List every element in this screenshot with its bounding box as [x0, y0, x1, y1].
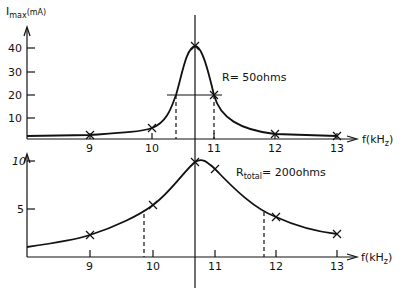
top-ytick-30: 30	[8, 66, 22, 79]
bottom-xlabel: f(kHz)	[361, 251, 392, 266]
top-ytick-40: 40	[8, 42, 22, 55]
bottom-xtick-13: 13	[330, 260, 344, 273]
bottom-xtick-10: 10	[146, 260, 160, 273]
top-ylabel: Imax(mA)	[6, 5, 46, 20]
bottom-xtick-11: 11	[208, 260, 222, 273]
top-xtick-12: 12	[268, 142, 282, 155]
top-xtick-9: 9	[86, 142, 93, 155]
top-xtick-10: 10	[145, 142, 159, 155]
bottom-ytick-10: 10	[12, 155, 26, 168]
top-ytick-10: 10	[8, 112, 22, 125]
top-ytick-20: 20	[8, 89, 22, 102]
top-annotation: R= 50ohms	[222, 71, 287, 84]
bottom-annotation: Rtotal= 200ohms	[236, 166, 326, 181]
bottom-xtick-12: 12	[269, 260, 283, 273]
top-xtick-13: 13	[330, 142, 344, 155]
top-chart	[24, 27, 357, 142]
top-xtick-11: 11	[207, 142, 221, 155]
top-xlabel: f(kHz)	[362, 133, 393, 148]
bottom-xtick-9: 9	[86, 260, 93, 273]
bottom-ytick-5: 5	[17, 203, 24, 216]
resonance-charts: Imax(mA) 40 30 20 10 9 10 11 12 13 f(kHz…	[0, 0, 409, 290]
